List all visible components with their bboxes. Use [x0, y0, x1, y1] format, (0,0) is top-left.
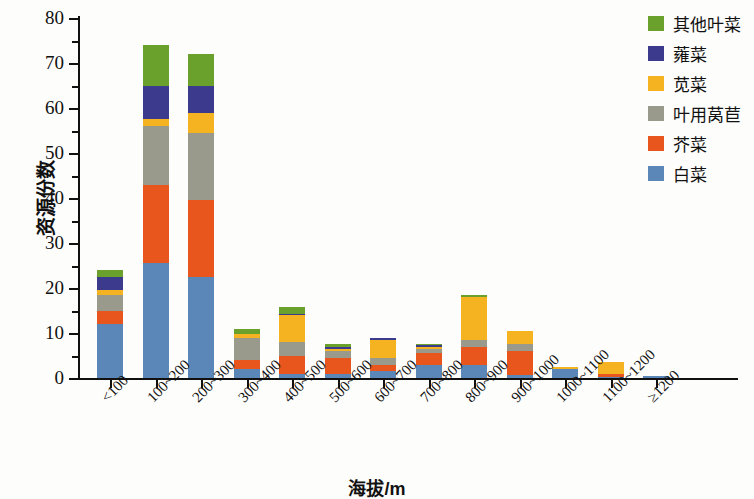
bar-segment — [188, 54, 214, 86]
bar-segment — [416, 353, 442, 364]
y-axis-tick-major — [69, 333, 78, 335]
legend-item-label: 蕹菜 — [673, 41, 707, 66]
legend-swatch-icon — [648, 106, 664, 121]
legend-item[interactable]: 其他叶菜 — [648, 8, 754, 38]
y-axis-tick-major — [69, 108, 78, 110]
plot-area: 01020304050607080 — [78, 18, 633, 378]
bar-segment — [97, 295, 123, 311]
y-axis-tick-label: 50 — [45, 142, 64, 164]
bar-stack — [188, 54, 214, 378]
legend-item[interactable]: 叶用莴苣 — [648, 98, 754, 128]
legend-item[interactable]: 白菜 — [648, 158, 754, 188]
bar-segment — [279, 356, 305, 374]
y-axis-tick-minor — [72, 86, 78, 88]
legend-swatch-icon — [648, 46, 664, 61]
bar-segment — [461, 340, 487, 347]
y-axis-tick-label: 30 — [45, 232, 64, 254]
y-axis-tick-label: 70 — [45, 52, 64, 74]
bar-segment — [143, 263, 169, 378]
bar-stack — [461, 295, 487, 378]
legend-item[interactable]: 蕹菜 — [648, 38, 754, 68]
bar-segment — [234, 338, 260, 361]
y-axis-tick-minor — [72, 266, 78, 268]
y-axis-tick-major — [69, 288, 78, 290]
y-axis-tick-label: 40 — [45, 187, 64, 209]
legend-swatch-icon — [648, 136, 664, 151]
bar-stack — [507, 331, 533, 378]
bar-segment — [97, 270, 123, 277]
chart-legend: 其他叶菜蕹菜苋菜叶用莴苣芥菜白菜 — [648, 8, 754, 188]
legend-item[interactable]: 苋菜 — [648, 68, 754, 98]
bar-segment — [143, 45, 169, 86]
y-axis-tick-major — [69, 153, 78, 155]
y-axis-tick-minor — [72, 356, 78, 358]
legend-item-label: 叶用莴苣 — [673, 101, 741, 126]
y-axis-tick-major — [69, 198, 78, 200]
bar-segment — [97, 311, 123, 325]
bar-segment — [143, 86, 169, 120]
bar-segment — [188, 133, 214, 201]
legend-item-label: 白菜 — [673, 161, 707, 186]
y-axis-tick-label: 10 — [45, 322, 64, 344]
legend-item-label: 其他叶菜 — [673, 11, 741, 36]
bar-segment — [188, 86, 214, 113]
bar-segment — [370, 340, 396, 358]
legend-swatch-icon — [648, 16, 664, 31]
bar-segment — [279, 315, 305, 342]
y-axis-tick-label: 80 — [45, 7, 64, 29]
bar-segment — [143, 126, 169, 185]
y-axis-tick-minor — [72, 176, 78, 178]
legend-item-label: 苋菜 — [673, 71, 707, 96]
y-axis-tick-label: 60 — [45, 97, 64, 119]
legend-swatch-icon — [648, 76, 664, 91]
y-axis-tick-label: 20 — [45, 277, 64, 299]
bar-segment — [97, 324, 123, 378]
bar-segment — [507, 344, 533, 351]
bar-segment — [461, 297, 487, 340]
y-axis-tick-major — [69, 243, 78, 245]
legend-item-label: 芥菜 — [673, 131, 707, 156]
bar-stack — [143, 45, 169, 378]
bar-segment — [279, 342, 305, 356]
y-axis-tick-major — [69, 18, 78, 20]
x-axis-tick-label: ≥1200 — [644, 367, 683, 406]
y-axis-tick-minor — [72, 131, 78, 133]
y-axis-tick-minor — [72, 221, 78, 223]
legend-item[interactable]: 芥菜 — [648, 128, 754, 158]
stacked-bar-chart: 资源份数 海拔/m 01020304050607080 <100100~2002… — [0, 0, 754, 499]
legend-swatch-icon — [648, 166, 664, 181]
bar-segment — [325, 351, 351, 358]
bar-segment — [97, 277, 123, 291]
bar-segment — [507, 331, 533, 345]
bar-segment — [188, 113, 214, 133]
bar-stack — [234, 329, 260, 378]
y-axis-tick-minor — [72, 41, 78, 43]
bar-segment — [143, 119, 169, 126]
y-axis-tick-major — [69, 63, 78, 65]
bar-segment — [143, 185, 169, 264]
y-axis-tick-major — [69, 378, 78, 380]
bar-segment — [370, 358, 396, 365]
bar-segment — [325, 358, 351, 374]
y-axis-tick-label: 0 — [55, 367, 65, 389]
bar-segment — [461, 347, 487, 365]
bar-segment — [188, 200, 214, 277]
y-axis-tick-minor — [72, 311, 78, 313]
bar-stack — [97, 270, 123, 378]
x-axis-title: 海拔/m — [0, 474, 754, 499]
bar-segment — [507, 351, 533, 375]
bar-segment — [188, 277, 214, 378]
